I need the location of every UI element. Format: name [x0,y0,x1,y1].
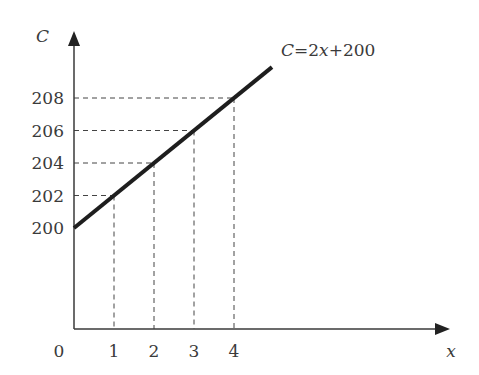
dashed-guides [74,98,234,329]
y-tick-label: 202 [32,186,64,206]
equation-annotation: C=2x+200 [281,40,375,60]
x-tick-label: 3 [189,341,200,361]
y-tick-label: 204 [32,153,64,173]
equation-part: =2 [294,40,319,60]
x-tick-label: 1 [109,341,120,361]
x-axis-arrow-icon [435,323,450,335]
y-tick-label: 206 [32,121,64,141]
origin-label: 0 [54,341,65,361]
series-line-cost [74,67,272,228]
x-tick-label: 2 [149,341,160,361]
equation-part: +200 [329,40,376,60]
y-tick-label: 208 [32,88,64,108]
y-axis-arrow-icon [68,31,80,46]
cost-function-chart: 2002022042062081234 C x 0 C=2x+200 [0,0,479,375]
equation-part: x [319,40,329,60]
x-axis-label: x [446,341,456,361]
x-tick-label: 4 [229,341,240,361]
tick-labels: 2002022042062081234 [32,88,240,361]
y-tick-label: 200 [32,218,64,238]
y-axis-label: C [36,26,49,46]
equation-part: C [281,40,294,60]
